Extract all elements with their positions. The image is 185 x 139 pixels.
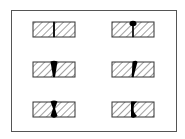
joint-3 bbox=[33, 61, 75, 77]
weld-joints-diagram bbox=[0, 0, 185, 139]
joint-5 bbox=[33, 101, 75, 118]
weld-bead bbox=[130, 21, 137, 27]
joint-4 bbox=[112, 61, 154, 77]
joint-1 bbox=[33, 22, 75, 37]
joint-6 bbox=[112, 102, 154, 118]
joint-2 bbox=[112, 21, 154, 37]
